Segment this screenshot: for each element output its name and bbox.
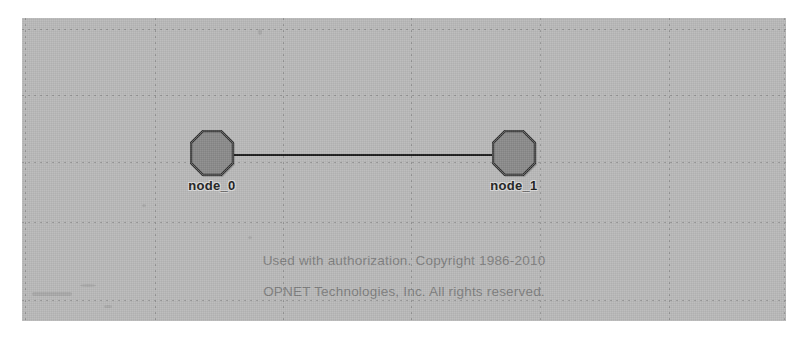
node-label: node_1: [490, 178, 537, 193]
node-label: node_0: [188, 178, 235, 193]
network-topology-canvas[interactable]: node_0 node_1 Used with authorization. C…: [22, 18, 786, 321]
octagon-node-icon: [492, 130, 536, 176]
copyright-notice-line-2: OPNET Technologies, Inc. All rights rese…: [22, 284, 786, 299]
topology-objects: node_0 node_1: [22, 18, 786, 321]
network-node-node_1[interactable]: node_1: [492, 130, 536, 176]
copyright-notice-line-1: Used with authorization. Copyright 1986-…: [22, 253, 786, 268]
octagon-node-icon: [190, 130, 234, 176]
network-link-node0-node1[interactable]: [234, 154, 492, 156]
network-node-node_0[interactable]: node_0: [190, 130, 234, 176]
screenshot-root: node_0 node_1 Used with authorization. C…: [0, 0, 803, 340]
